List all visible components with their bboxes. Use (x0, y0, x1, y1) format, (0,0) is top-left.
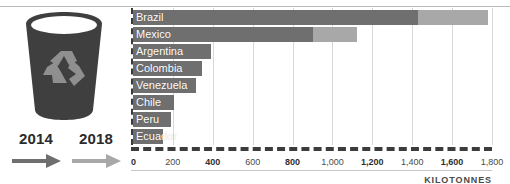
infographic-root: 2014 2018 BrazilMexicoArgentinaColombiaV… (0, 0, 510, 184)
bar-category-label: Colombia (136, 61, 182, 76)
x-axis-line (131, 147, 492, 151)
bar-row[interactable]: Colombia (133, 61, 202, 76)
bottom-divider (131, 170, 492, 171)
x-axis-tick-label: 1,000 (321, 156, 344, 168)
x-axis-tick-label: 1,800 (481, 156, 504, 168)
plot-area: BrazilMexicoArgentinaColombiaVenezuelaCh… (131, 8, 492, 145)
bar-category-label: Argentina (136, 44, 183, 59)
axis-unit-label: KILOTONNES (131, 175, 492, 184)
bar-chart: BrazilMexicoArgentinaColombiaVenezuelaCh… (131, 8, 510, 184)
bar-row[interactable]: Mexico (133, 27, 357, 42)
bar-row[interactable]: Brazil (133, 10, 488, 25)
legend-item-2014: 2014 (8, 130, 64, 171)
bar-segment-2014[interactable] (133, 10, 418, 25)
bar-category-label: Ecuador (136, 129, 177, 144)
x-axis-tick-label: 400 (205, 156, 220, 168)
x-axis-tick-label: 1,400 (401, 156, 424, 168)
x-axis-tick-label: 800 (285, 156, 300, 168)
bar-segment-2018[interactable] (313, 27, 358, 42)
bar-series-group: BrazilMexicoArgentinaColombiaVenezuelaCh… (133, 8, 492, 145)
gridline (492, 8, 493, 145)
arrow-right-icon (8, 151, 64, 171)
x-axis-tick-label: 1,600 (441, 156, 464, 168)
x-axis-ticks: 02004006008001,0001,2001,4001,6001,800 (131, 156, 510, 168)
x-axis-tick-label: 0 (131, 156, 136, 168)
legend-year-label: 2018 (68, 130, 124, 148)
arrow-right-icon (68, 151, 124, 171)
top-divider (0, 6, 510, 7)
bar-category-label: Venezuela (136, 78, 187, 93)
bar-segment-2018[interactable] (418, 10, 488, 25)
x-axis-tick-label: 1,200 (361, 156, 384, 168)
bar-row[interactable]: Ecuador (133, 129, 163, 144)
bar-row[interactable]: Argentina (133, 44, 211, 59)
year-legend: 2014 2018 (4, 130, 126, 178)
bar-category-label: Brazil (136, 10, 164, 25)
bar-category-label: Chile (136, 95, 161, 110)
legend-year-label: 2014 (8, 130, 64, 148)
bar-row[interactable]: Venezuela (133, 78, 196, 93)
recycling-bin-icon (14, 10, 114, 122)
bar-category-label: Peru (136, 112, 159, 127)
x-axis-tick-label: 600 (245, 156, 260, 168)
bar-row[interactable]: Peru (133, 112, 171, 127)
bar-category-label: Mexico (136, 27, 171, 42)
bar-row[interactable]: Chile (133, 95, 174, 110)
legend-item-2018: 2018 (68, 130, 124, 171)
x-axis-tick-label: 200 (165, 156, 180, 168)
illustration-panel: 2014 2018 (0, 8, 128, 184)
